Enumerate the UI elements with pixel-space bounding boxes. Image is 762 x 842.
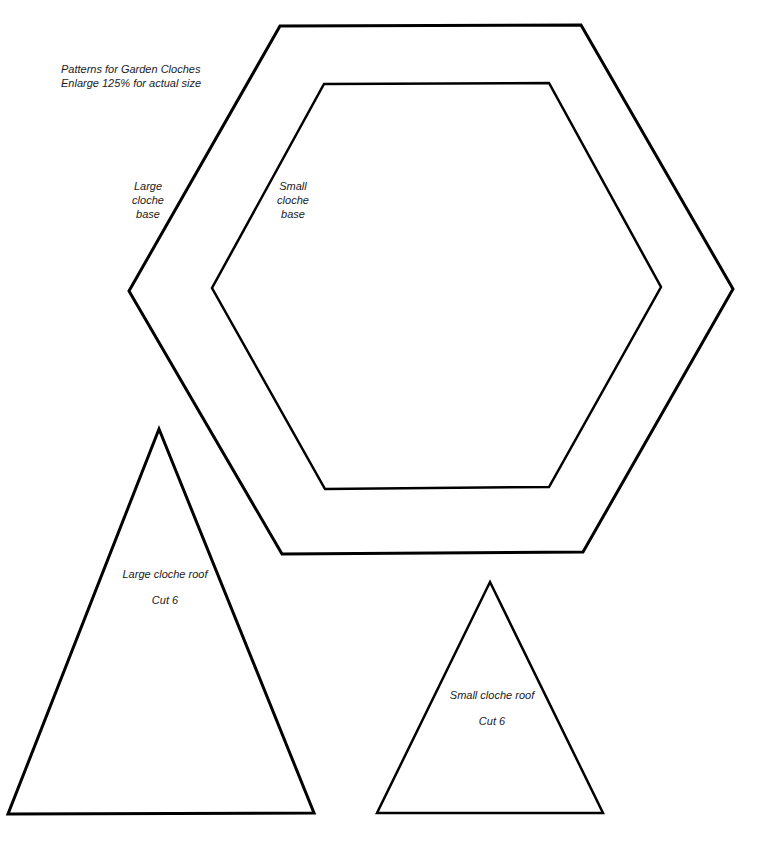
small-cloche-base-hexagon — [212, 83, 661, 489]
label-line: Large — [125, 179, 171, 193]
label-line: base — [270, 207, 316, 221]
small-roof-label: Small cloche roof Cut 6 — [432, 688, 552, 728]
large-roof-label: Large cloche roof Cut 6 — [100, 567, 230, 607]
label-line: cloche — [270, 193, 316, 207]
pattern-canvas — [0, 0, 762, 842]
cut-count: Cut 6 — [100, 593, 230, 607]
large-cloche-base-hexagon — [129, 25, 733, 554]
cut-count: Cut 6 — [432, 714, 552, 728]
roof-name: Small cloche roof — [432, 688, 552, 702]
roof-name: Large cloche roof — [100, 567, 230, 581]
large-cloche-roof-triangle — [8, 429, 314, 814]
subtitle-line: Enlarge 125% for actual size — [61, 76, 201, 90]
label-line: base — [125, 207, 171, 221]
small-base-label: Small cloche base — [270, 179, 316, 221]
label-line: Small — [270, 179, 316, 193]
label-line: cloche — [125, 193, 171, 207]
large-base-label: Large cloche base — [125, 179, 171, 221]
title-line: Patterns for Garden Cloches — [61, 62, 201, 76]
page-title: Patterns for Garden Cloches Enlarge 125%… — [61, 62, 201, 90]
